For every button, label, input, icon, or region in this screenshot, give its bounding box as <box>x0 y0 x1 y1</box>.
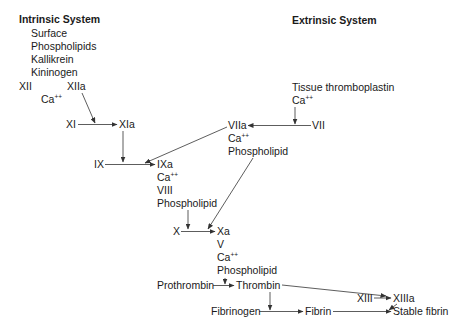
arrow-thrombin-to-xiiia <box>282 285 386 296</box>
arrow-viia-to-x <box>208 158 253 229</box>
pathway-arrows <box>0 0 465 327</box>
arrow-xiia-to-xi <box>82 93 95 123</box>
arrow-xiiia-to-stable-fibrin <box>389 304 397 310</box>
arrow-viia-to-ix <box>145 127 227 163</box>
